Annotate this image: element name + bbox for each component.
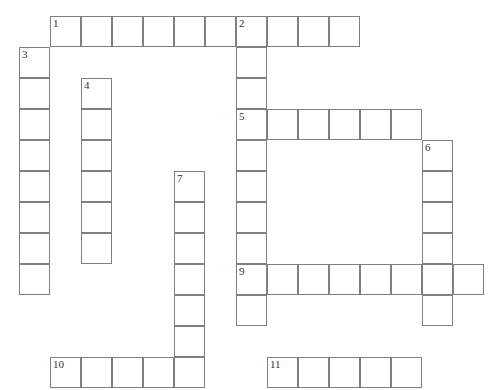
crossword-cell-numbered-7[interactable]: 7 <box>174 171 205 202</box>
crossword-cell[interactable] <box>236 295 267 326</box>
crossword-cell[interactable] <box>422 202 453 233</box>
crossword-cell[interactable] <box>19 233 50 264</box>
crossword-cell[interactable] <box>329 264 360 295</box>
crossword-cell[interactable] <box>236 47 267 78</box>
crossword-cell[interactable] <box>143 16 174 47</box>
crossword-cell[interactable] <box>81 357 112 388</box>
crossword-cell[interactable] <box>81 233 112 264</box>
cell-number-2: 2 <box>239 17 245 29</box>
crossword-cell[interactable] <box>174 202 205 233</box>
crossword-cell[interactable] <box>236 78 267 109</box>
crossword-cell[interactable] <box>19 109 50 140</box>
crossword-cell[interactable] <box>236 171 267 202</box>
crossword-cell-numbered-4[interactable]: 4 <box>81 78 112 109</box>
crossword-cell-numbered-11[interactable]: 11 <box>267 357 298 388</box>
crossword-cell[interactable] <box>19 202 50 233</box>
crossword-cell[interactable] <box>174 233 205 264</box>
crossword-cell-numbered-10[interactable]: 10 <box>50 357 81 388</box>
cell-number-9: 9 <box>239 265 245 277</box>
crossword-cell[interactable] <box>391 357 422 388</box>
crossword-cell[interactable] <box>329 357 360 388</box>
crossword-cell[interactable] <box>360 109 391 140</box>
crossword-cell[interactable] <box>112 357 143 388</box>
cell-number-11: 11 <box>270 358 281 370</box>
cell-number-4: 4 <box>84 79 90 91</box>
crossword-cell[interactable] <box>236 233 267 264</box>
crossword-cell[interactable] <box>422 171 453 202</box>
crossword-cell-numbered-2[interactable]: 2 <box>236 16 267 47</box>
crossword-cell[interactable] <box>19 78 50 109</box>
crossword-cell[interactable] <box>81 16 112 47</box>
crossword-cell[interactable] <box>329 16 360 47</box>
crossword-cell[interactable] <box>329 109 360 140</box>
crossword-cell[interactable] <box>174 326 205 357</box>
crossword-cell-numbered-5[interactable]: 5 <box>236 109 267 140</box>
crossword-cell-numbered-3[interactable]: 3 <box>19 47 50 78</box>
crossword-cell[interactable] <box>267 16 298 47</box>
crossword-cell-numbered-6[interactable]: 6 <box>422 140 453 171</box>
cell-number-7: 7 <box>177 172 183 184</box>
crossword-cell-numbered-1[interactable]: 1 <box>50 16 81 47</box>
crossword-cell[interactable] <box>298 264 329 295</box>
crossword-cell[interactable] <box>267 109 298 140</box>
crossword-cell[interactable] <box>174 16 205 47</box>
cell-number-3: 3 <box>22 48 28 60</box>
crossword-cell[interactable] <box>360 264 391 295</box>
crossword-cell[interactable] <box>236 202 267 233</box>
crossword-cell[interactable] <box>143 357 174 388</box>
crossword-cell[interactable] <box>174 295 205 326</box>
crossword-cell[interactable] <box>205 16 236 47</box>
crossword-cell[interactable] <box>298 357 329 388</box>
crossword-cell[interactable] <box>298 16 329 47</box>
crossword-cell[interactable] <box>19 264 50 295</box>
crossword-cell[interactable] <box>19 171 50 202</box>
crossword-cell[interactable] <box>391 109 422 140</box>
crossword-cell[interactable] <box>81 171 112 202</box>
crossword-grid[interactable]: 123456791011 <box>0 0 501 390</box>
crossword-cell[interactable] <box>81 202 112 233</box>
crossword-cell[interactable] <box>453 264 484 295</box>
crossword-cell[interactable] <box>298 109 329 140</box>
crossword-cell-numbered-9[interactable]: 9 <box>236 264 267 295</box>
crossword-cell[interactable] <box>174 357 205 388</box>
crossword-cell[interactable] <box>174 264 205 295</box>
crossword-cell[interactable] <box>112 16 143 47</box>
crossword-cell[interactable] <box>360 357 391 388</box>
crossword-cell[interactable] <box>81 109 112 140</box>
cell-number-5: 5 <box>239 110 245 122</box>
cell-number-6: 6 <box>425 141 431 153</box>
cell-number-1: 1 <box>53 17 59 29</box>
crossword-cell[interactable] <box>422 264 453 295</box>
cell-number-10: 10 <box>53 358 64 370</box>
crossword-cell[interactable] <box>236 140 267 171</box>
crossword-cell[interactable] <box>422 233 453 264</box>
crossword-cell[interactable] <box>19 140 50 171</box>
crossword-cell[interactable] <box>267 264 298 295</box>
crossword-cell[interactable] <box>422 295 453 326</box>
crossword-cell[interactable] <box>391 264 422 295</box>
crossword-cell[interactable] <box>81 140 112 171</box>
